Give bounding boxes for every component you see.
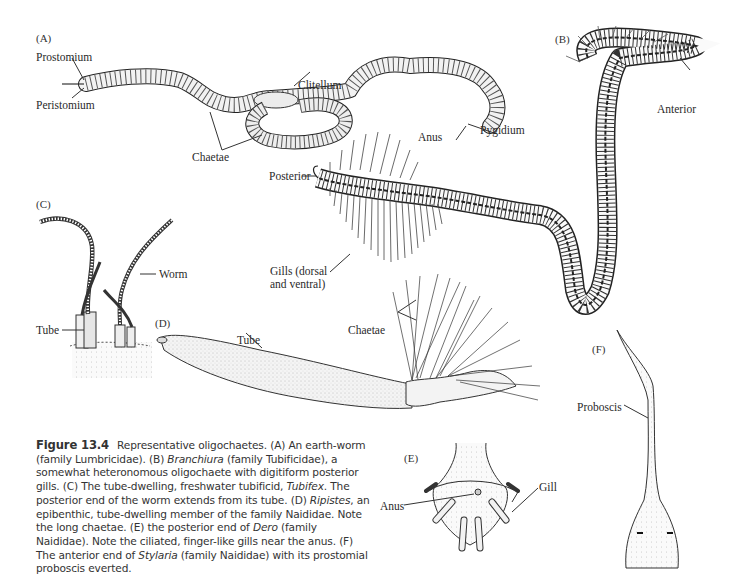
caption-genus-name: Tubifex: [287, 480, 324, 492]
caption-body: Representative oligochaetes. (A) An eart…: [36, 439, 370, 574]
panel-d-tag: (D): [155, 317, 170, 329]
panel-f-tag: (F): [592, 343, 605, 355]
label-tube-d: Tube: [237, 334, 260, 347]
label-anus-a: Anus: [418, 131, 442, 144]
label-gill: Gill: [539, 481, 557, 494]
label-chaetae-a: Chaetae: [192, 151, 229, 164]
panel-a-tag: (A): [36, 32, 51, 44]
caption-genus-name: Stylaria: [138, 549, 177, 561]
label-worm: Worm: [159, 268, 187, 281]
dero-illustration: [404, 443, 538, 548]
caption-genus-name: Branchiura: [167, 453, 223, 465]
label-chaetae-d: Chaetae: [348, 324, 385, 337]
panel-c-tag: (C): [36, 198, 51, 210]
stylaria-illustration: [617, 330, 678, 568]
caption-genus-name: Dero: [253, 521, 278, 533]
label-peristomium: Peristomium: [36, 99, 95, 112]
label-clitellum: Clitellum: [298, 79, 341, 92]
caption-genus-name: Ripistes: [310, 494, 350, 506]
label-gills-line1: Gills (dorsal: [270, 265, 327, 278]
label-gills-line2: and ventral): [270, 278, 325, 291]
figure-caption: Figure 13.4Representative oligochaetes. …: [36, 439, 372, 576]
ripistes-illustration: [157, 274, 540, 408]
tubifex-illustration: [40, 219, 172, 378]
label-prostomium: Prostomium: [36, 51, 92, 64]
figure-number: Figure 13.4: [36, 438, 109, 452]
label-tube-c: Tube: [36, 324, 59, 337]
label-anterior: Anterior: [657, 103, 696, 116]
panel-b-tag: (B): [555, 33, 570, 45]
label-pygidium: Pygidium: [480, 124, 525, 137]
label-posterior: Posterior: [269, 170, 311, 183]
label-proboscis: Proboscis: [577, 401, 622, 414]
label-anus-e: Anus: [380, 500, 404, 513]
panel-e-tag: (E): [404, 452, 418, 464]
